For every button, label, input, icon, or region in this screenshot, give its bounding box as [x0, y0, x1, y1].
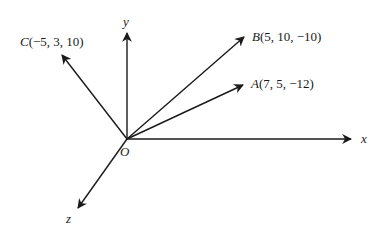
point-c-coords: (−5, 3, 10) — [29, 34, 84, 49]
vector-c-arrow — [62, 55, 127, 139]
point-b-label: B(5, 10, −10) — [252, 30, 321, 43]
point-c-name: C — [20, 34, 29, 49]
vector-a-arrow — [127, 85, 243, 139]
x-axis-label: x — [361, 132, 367, 145]
z-axis-label: z — [66, 212, 71, 225]
point-a-name: A — [251, 76, 259, 91]
point-b-name: B — [252, 29, 260, 44]
point-c-label: C(−5, 3, 10) — [20, 35, 84, 48]
point-a-coords: (7, 5, −12) — [259, 76, 314, 91]
vector-b-arrow — [127, 37, 244, 139]
point-b-coords: (5, 10, −10) — [260, 29, 322, 44]
point-a-label: A(7, 5, −12) — [251, 77, 314, 90]
origin-label: O — [120, 145, 129, 158]
y-axis-label: y — [123, 15, 129, 28]
